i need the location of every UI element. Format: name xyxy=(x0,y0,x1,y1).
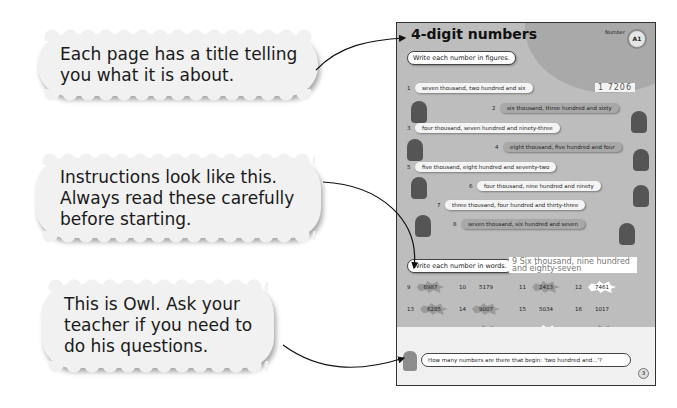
question-row: 7three thousand, four hundred and thirty… xyxy=(437,200,585,210)
question-row: 2six thousand, three hundred and sixty xyxy=(492,103,619,113)
number-item: 127461 xyxy=(575,281,616,293)
page-number: 3 xyxy=(638,368,649,379)
page-title: 4-digit numbers xyxy=(411,26,537,42)
number-item: 136285 xyxy=(407,303,448,315)
callout-owl-text: This is Owl. Ask your teacher if you nee… xyxy=(64,294,252,357)
question-row: 8seven thousand, six hundred and seven xyxy=(453,219,585,229)
child-avatar xyxy=(407,139,423,161)
child-avatar xyxy=(415,215,431,237)
example-answer: 1 7206 xyxy=(595,83,635,92)
number-item: 112413 xyxy=(519,281,560,293)
unit-badge: A1 xyxy=(627,29,647,49)
number-item: 105179 xyxy=(459,281,500,293)
number-item: 161017 xyxy=(575,303,616,315)
callout-title-text: Each page has a title telling you what i… xyxy=(60,44,297,86)
question-row: 5five thousand, eight hundred and sevent… xyxy=(407,162,556,172)
child-avatar xyxy=(411,177,427,199)
words-answer: 9 Six thousand, nine hundred and eighty-… xyxy=(509,257,637,273)
workbook-page: 4-digit numbers Number A1 Write each num… xyxy=(396,22,656,386)
number-item: 96987 xyxy=(407,281,445,293)
number-item: 149007 xyxy=(459,303,500,315)
instruction-words: Write each number in words. xyxy=(407,259,513,273)
child-avatar xyxy=(633,185,649,207)
owl-question: How many numbers are there that begin: '… xyxy=(421,353,631,367)
number-item: 155034 xyxy=(519,303,560,315)
question-row: 3four thousand, seven hundred and ninety… xyxy=(407,123,560,133)
callout-instructions-text: Instructions look like this. Always read… xyxy=(60,167,294,230)
child-avatar xyxy=(631,111,647,133)
instruction-figures: Write each number in figures. xyxy=(407,51,516,65)
child-avatar xyxy=(411,101,427,123)
child-avatar xyxy=(619,223,635,245)
owl-icon xyxy=(403,351,417,371)
question-row: 1seven thousand, two hundred and six xyxy=(407,83,533,93)
strand-label: Number xyxy=(605,29,625,35)
child-avatar xyxy=(633,149,649,171)
question-row: 6four thousand, nine hundred and ninety xyxy=(469,181,601,191)
question-row: 4eight thousand, five hundred and four xyxy=(495,142,622,152)
